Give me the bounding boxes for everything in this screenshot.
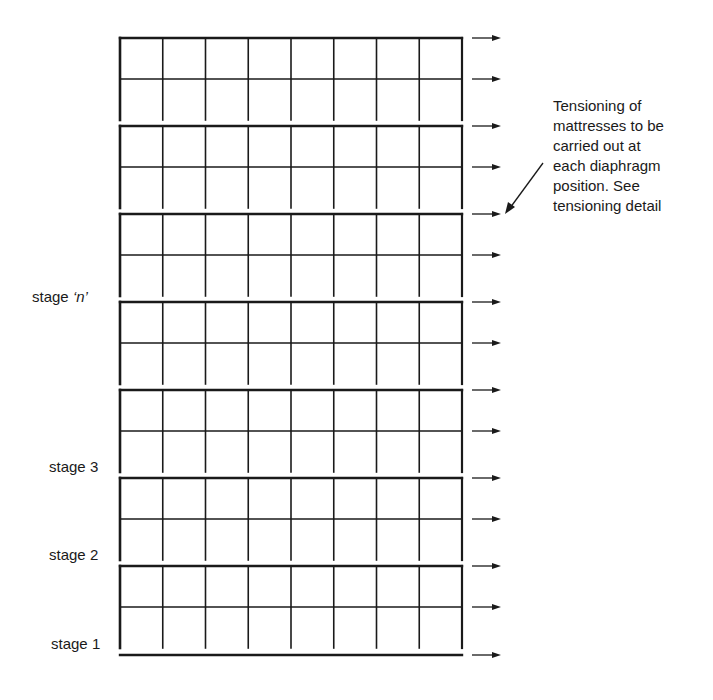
tension-arrow-icon [472,123,501,129]
annotation-line: each diaphragm [553,156,664,176]
stage-value: 1 [92,635,100,652]
stage-value: 3 [90,458,98,475]
annotation-line: position. See [553,176,664,196]
tension-arrow-icon [472,563,501,569]
stage-n-label: stage ‘n’ [32,288,88,305]
tension-arrow-icon [472,299,501,305]
stage-prefix: stage [51,635,92,652]
annotation-line: Tensioning of [553,96,664,116]
tension-arrow-icon [472,252,501,258]
annotation-line: carried out at [553,136,664,156]
stage-prefix: stage [49,546,90,563]
tension-arrow-icon [472,516,501,522]
stage-value: ‘n’ [73,288,88,305]
stage-2-label: stage 2 [49,546,98,563]
tension-arrow-icon [472,387,501,393]
tension-arrow-icon [472,428,501,434]
tension-arrow-icon [472,652,501,658]
tension-arrow-icon [472,604,501,610]
tension-arrow-icon [472,211,501,217]
annotation-line: tensioning detail [553,196,664,216]
tension-arrow-icon [472,340,501,346]
tension-arrow-icon [472,164,501,170]
diagram-canvas: stage ‘n’ stage 3 stage 2 stage 1 Tensio… [0,0,713,700]
tension-arrow-icon [472,76,501,82]
tension-arrow-icon [472,35,501,41]
stage-prefix: stage [32,288,73,305]
annotation-line: mattresses to be [553,116,664,136]
tension-arrow-icon [472,475,501,481]
leader-arrow-icon [505,163,543,214]
stage-prefix: stage [49,458,90,475]
stage-3-label: stage 3 [49,458,98,475]
stage-1-label: stage 1 [51,635,100,652]
stage-value: 2 [90,546,98,563]
tensioning-annotation: Tensioning of mattresses to be carried o… [553,96,664,216]
